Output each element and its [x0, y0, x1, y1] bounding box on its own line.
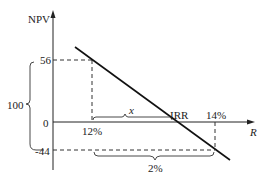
y-axis-label: NPV — [28, 14, 50, 25]
npv-line — [75, 47, 230, 160]
x-axis-label: R — [250, 127, 257, 138]
y-axis-arrow-icon — [51, 10, 56, 18]
left-brace-label: 100 — [7, 100, 24, 111]
y-tick-56: 56 — [40, 55, 51, 66]
x-brace-label: x — [129, 105, 134, 116]
npv-irr-diagram: NPV 56 0 -44 100 12% 14% IRR x R 2% — [0, 0, 266, 181]
x-tick-14pct: 14% — [206, 110, 226, 121]
bottom-brace-label: 2% — [148, 163, 163, 174]
left-brace — [26, 62, 44, 150]
x-axis-arrow-icon — [247, 120, 255, 125]
y-tick-neg44: -44 — [35, 146, 50, 157]
irr-label: IRR — [170, 110, 188, 121]
bottom-brace — [94, 152, 214, 160]
y-tick-0: 0 — [43, 118, 49, 129]
x-tick-12pct: 12% — [82, 126, 102, 137]
